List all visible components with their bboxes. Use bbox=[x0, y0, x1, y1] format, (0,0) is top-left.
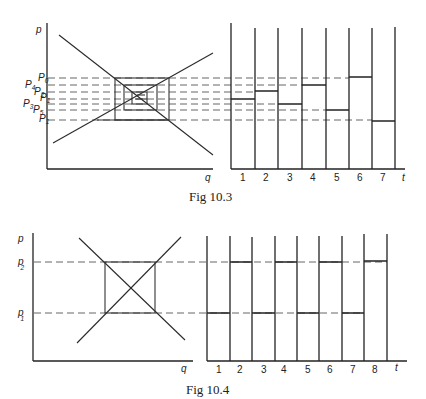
price-labels: P0 P4 P2 P1 P3 P5 P1 bbox=[23, 72, 51, 125]
svg-text:3: 3 bbox=[287, 172, 293, 183]
svg-text:P1: P1 bbox=[39, 113, 50, 125]
p2-label: p2 bbox=[17, 256, 25, 271]
svg-text:5: 5 bbox=[305, 364, 311, 375]
svg-text:6: 6 bbox=[327, 364, 333, 375]
fig-10-4: p q p2 p1 1 2 3 4 5 bbox=[17, 233, 407, 397]
y-axis-label: p bbox=[17, 233, 24, 244]
svg-text:2: 2 bbox=[263, 172, 269, 183]
fig-10-3: p q P0 P4 P2 P1 P3 P5 P1 bbox=[23, 23, 406, 204]
x-axis-label: q bbox=[205, 172, 211, 183]
supply-curve bbox=[77, 237, 181, 343]
x-axis-label: q bbox=[181, 363, 187, 374]
svg-text:t: t bbox=[395, 362, 399, 373]
figure-caption: Fig 10.3 bbox=[189, 189, 232, 204]
cobweb-diagrams: p q P0 P4 P2 P1 P3 P5 P1 bbox=[0, 0, 426, 399]
supply-curve bbox=[53, 53, 213, 143]
svg-text:4: 4 bbox=[281, 364, 287, 375]
y-axis-label: p bbox=[35, 24, 42, 35]
time-panel: 1 2 3 4 5 6 7 8 t bbox=[207, 234, 407, 375]
svg-text:1: 1 bbox=[216, 364, 222, 375]
svg-text:7: 7 bbox=[350, 364, 356, 375]
svg-text:2: 2 bbox=[237, 364, 243, 375]
svg-text:P1: P1 bbox=[40, 92, 51, 104]
svg-text:5: 5 bbox=[334, 172, 340, 183]
time-panel: 1 2 3 4 5 6 7 t bbox=[231, 23, 406, 183]
svg-text:1: 1 bbox=[240, 172, 246, 183]
svg-text:6: 6 bbox=[357, 172, 363, 183]
svg-text:8: 8 bbox=[372, 364, 378, 375]
svg-text:3: 3 bbox=[261, 364, 267, 375]
svg-text:4: 4 bbox=[310, 172, 316, 183]
p1-label: p1 bbox=[17, 307, 25, 322]
svg-text:t: t bbox=[402, 172, 406, 183]
cobweb-middle bbox=[124, 85, 157, 110]
demand-curve bbox=[59, 35, 213, 155]
svg-text:7: 7 bbox=[380, 172, 386, 183]
figure-caption: Fig 10.4 bbox=[186, 382, 230, 397]
